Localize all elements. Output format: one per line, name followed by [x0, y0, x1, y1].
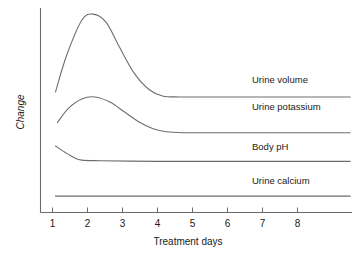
series-label-body-ph: Body pH: [252, 141, 289, 152]
series-label-urine-volume: Urine volume: [252, 74, 308, 85]
chart-figure: 1 2 3 4 5 6 7 8 Treatment days Change Ur…: [0, 0, 359, 257]
y-axis-title: Change: [15, 94, 26, 129]
x-axis-tick-labels: 1 2 3 4 5 6 7 8: [50, 218, 301, 229]
x-tick-label-4: 4: [155, 218, 161, 229]
x-axis-title: Treatment days: [153, 236, 222, 247]
x-tick-label-2: 2: [85, 218, 91, 229]
x-tick-label-3: 3: [120, 218, 126, 229]
x-tick-label-7: 7: [260, 218, 266, 229]
series-labels: Urine volume Urine potassium Body pH Uri…: [252, 74, 321, 186]
series-line-body-ph: [56, 146, 351, 161]
x-tick-label-5: 5: [190, 218, 196, 229]
x-tick-label-6: 6: [225, 218, 231, 229]
series-label-urine-potassium: Urine potassium: [252, 101, 321, 112]
x-tick-label-8: 8: [295, 218, 301, 229]
line-chart-svg: 1 2 3 4 5 6 7 8 Treatment days Change Ur…: [0, 0, 359, 257]
series-label-urine-calcium: Urine calcium: [252, 175, 310, 186]
x-tick-label-1: 1: [50, 218, 56, 229]
x-axis-ticks: [53, 208, 298, 213]
